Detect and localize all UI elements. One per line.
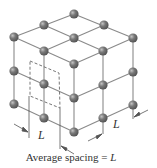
atom-node (39, 79, 48, 88)
atom-node (69, 33, 78, 42)
atom-node (69, 9, 78, 18)
atom-node (98, 80, 107, 89)
atom-node (98, 46, 107, 55)
lattice-bonds (14, 14, 133, 132)
cubic-lattice-diagram (0, 0, 157, 168)
atom-node (128, 100, 137, 109)
atom-node (9, 99, 18, 108)
atom-node (39, 46, 48, 55)
dimension-label-left: L (38, 128, 45, 143)
dimension-lines (14, 96, 148, 154)
atom-node (39, 20, 48, 29)
atom-node (69, 59, 78, 68)
atom-node (128, 67, 137, 76)
caption-variable: L (110, 151, 116, 163)
atom-node (99, 20, 108, 29)
atom-node (39, 113, 48, 122)
caption: Average spacing = L (0, 151, 142, 163)
caption-text: Average spacing = (26, 151, 111, 163)
atom-node (69, 93, 78, 102)
dimension-label-right: L (113, 117, 120, 132)
atom-node (98, 113, 107, 122)
atom-node (9, 66, 18, 75)
atom-node (9, 32, 18, 41)
atom-node (69, 127, 78, 136)
atom-node (128, 33, 137, 42)
